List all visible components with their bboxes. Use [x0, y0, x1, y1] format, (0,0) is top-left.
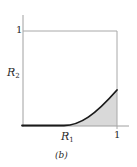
x-axis-label: R1 — [61, 131, 74, 144]
y-axis-label: R2 — [7, 67, 20, 80]
y-tick-label-1: 1 — [16, 25, 22, 35]
figure-caption: (b) — [55, 151, 68, 160]
y-axis-label-sub: 2 — [15, 72, 19, 80]
x-axis-label-sub: 1 — [69, 136, 73, 144]
shaded-region — [64, 90, 117, 126]
x-tick-label-1: 1 — [114, 130, 120, 140]
